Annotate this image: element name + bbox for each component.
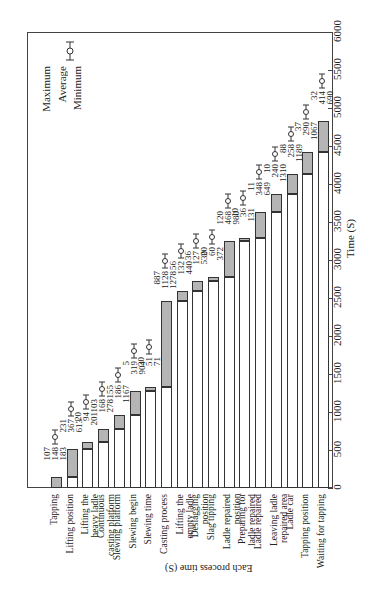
time-tick-label: 0 bbox=[331, 467, 343, 507]
bar-start-segment bbox=[161, 387, 172, 488]
bar-start-segment bbox=[98, 442, 109, 488]
category-label: Casting process bbox=[160, 494, 170, 554]
legend-average: Average bbox=[57, 66, 68, 102]
bar-start-segment bbox=[302, 174, 313, 488]
bar-duration-segment bbox=[318, 121, 329, 152]
bar-start-segment bbox=[255, 238, 266, 488]
error-bar-icon bbox=[238, 190, 248, 206]
bar-duration-segment bbox=[98, 429, 109, 442]
bar-start-segment bbox=[145, 391, 156, 488]
category-label: Tapping bbox=[50, 494, 60, 525]
bar-duration-segment bbox=[177, 291, 188, 301]
category-label: Tapping position bbox=[301, 494, 311, 558]
category-label: Slewing platform bbox=[113, 494, 123, 560]
legend-maximum: Maximum bbox=[41, 66, 52, 112]
time-tick-label: 5000 bbox=[331, 87, 343, 127]
bar-start-segment bbox=[114, 429, 125, 488]
bar-duration-segment bbox=[145, 387, 156, 391]
time-tick-label: 3500 bbox=[331, 201, 343, 241]
bar-duration-segment bbox=[255, 212, 266, 238]
bar-duration-segment bbox=[114, 415, 125, 429]
time-tick-label: 2500 bbox=[331, 277, 343, 317]
time-tick-label: 1000 bbox=[331, 391, 343, 431]
category-label: Ladle repaired bbox=[254, 494, 264, 549]
bar-duration-segment bbox=[67, 449, 78, 477]
bar-duration-segment bbox=[82, 442, 93, 449]
value-label-max: 278 bbox=[106, 399, 115, 413]
bar-duration-segment bbox=[130, 391, 141, 415]
value-label-max: 201 bbox=[90, 412, 99, 426]
bar-start-segment bbox=[208, 281, 219, 488]
bar-duration-segment bbox=[208, 277, 219, 282]
error-bar-icon bbox=[223, 193, 233, 209]
error-bar-icon bbox=[144, 339, 154, 355]
bar-duration-segment bbox=[287, 174, 298, 194]
bar-start-segment bbox=[177, 301, 188, 488]
bar-duration-segment bbox=[192, 281, 203, 291]
bar-start-segment bbox=[239, 241, 250, 488]
bar-duration-segment bbox=[302, 152, 313, 174]
bar-start-segment bbox=[130, 415, 141, 488]
bar-duration-segment bbox=[224, 241, 235, 277]
bar-duration-segment bbox=[161, 301, 172, 387]
category-label: Ladle car bbox=[286, 494, 296, 530]
error-bar-icon bbox=[317, 73, 327, 89]
category-label: Slewing begin bbox=[129, 494, 139, 549]
category-label: Slag tipping bbox=[207, 494, 217, 540]
category-label: Waiting for tapping bbox=[317, 494, 327, 568]
time-tick-label: 5500 bbox=[331, 49, 343, 89]
time-tick-label: 500 bbox=[331, 429, 343, 469]
bar-start-segment bbox=[82, 449, 93, 488]
legend-minimum: Minimum bbox=[72, 66, 83, 110]
time-tick-label: 1500 bbox=[331, 353, 343, 393]
bar-start-segment bbox=[287, 194, 298, 488]
category-label: Lifting position bbox=[66, 494, 76, 553]
bar-start-segment bbox=[192, 291, 203, 488]
time-tick-label: 4000 bbox=[331, 163, 343, 203]
bar-start-segment bbox=[318, 152, 329, 488]
error-bar-icon bbox=[301, 104, 311, 120]
x-axis-label: Time (S) bbox=[344, 219, 356, 258]
error-bar-legend-icon bbox=[64, 40, 76, 62]
category-label: Slewing time bbox=[144, 494, 154, 544]
bar-duration-segment bbox=[51, 477, 62, 488]
error-bar-icon bbox=[113, 367, 123, 383]
bar-duration-segment bbox=[239, 238, 250, 241]
bar-start-segment bbox=[271, 212, 282, 488]
bar-start-segment bbox=[224, 277, 235, 488]
time-tick-label: 3000 bbox=[331, 239, 343, 279]
time-tick-label: 4500 bbox=[331, 125, 343, 165]
y-axis-label: Each process time (S) bbox=[165, 563, 252, 574]
time-tick-label: 2000 bbox=[331, 315, 343, 355]
error-bar-icon bbox=[207, 229, 217, 245]
bar-start-segment bbox=[67, 477, 78, 488]
bar-duration-segment bbox=[271, 194, 282, 212]
time-tick-label: 6000 bbox=[331, 11, 343, 51]
